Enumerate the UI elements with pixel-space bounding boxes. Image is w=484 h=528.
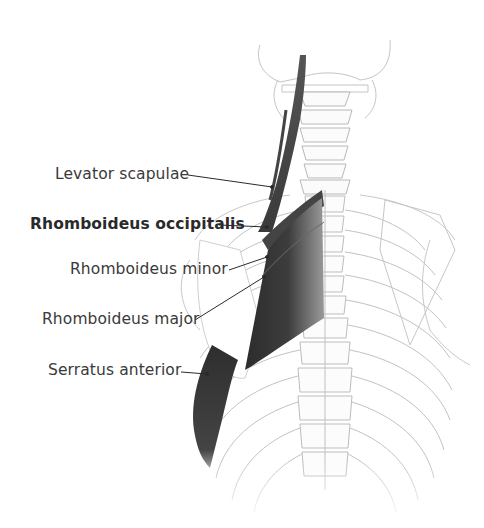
label-levator-scapulae: Levator scapulae <box>55 165 189 183</box>
scapula-right <box>380 200 455 345</box>
cervical-spine <box>298 92 352 194</box>
label-rhomboideus-major: Rhomboideus major <box>42 310 199 328</box>
serratus-anterior-muscle <box>193 345 238 468</box>
anatomy-figure: Levator scapulae Rhomboideus occipitalis… <box>0 0 484 528</box>
label-serratus-anterior: Serratus anterior <box>48 361 181 379</box>
skull-outline <box>258 40 390 120</box>
label-rhomboideus-minor: Rhomboideus minor <box>70 260 228 278</box>
label-rhomboideus-occipitalis: Rhomboideus occipitalis <box>30 215 245 233</box>
leader-levator <box>188 175 272 187</box>
